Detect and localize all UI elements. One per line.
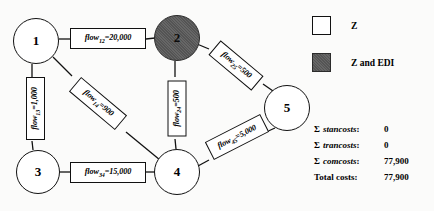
edge-line-1-4-b <box>126 132 160 160</box>
edge-label-1-3: flow13=1,000 <box>26 77 45 140</box>
edge-label-2-4-subscript: 24 <box>176 107 182 113</box>
node-1[interactable]: 1 <box>13 18 59 64</box>
legend-swatch-white <box>312 16 331 35</box>
edge-label-1-2-text: flow12=20,000 <box>85 33 132 44</box>
edge-label-1-3-subscript: 13 <box>35 110 41 116</box>
cost-value-trancosts: 0 <box>384 140 389 150</box>
edge-line-2-4-b <box>175 139 176 149</box>
cost-row-comcosts: Σcomcosts: 77,900 <box>314 156 409 172</box>
legend-label-z: Z <box>351 21 357 31</box>
legend-label-z-and-edi: Z and EDI <box>351 58 394 68</box>
cost-row-trancosts: Σtrancosts: 0 <box>314 140 409 156</box>
edge-label-1-2-value: 20,000 <box>109 33 131 42</box>
node-3[interactable]: 3 <box>16 150 60 194</box>
edge-label-1-3-value: 1,000 <box>30 87 39 105</box>
edge-label-3-4: flow34=15,000 <box>70 162 146 183</box>
sigma-icon: Σ <box>314 140 320 150</box>
edge-line-1-4 <box>53 57 72 76</box>
edge-label-2-4: flow24=500 <box>168 81 187 137</box>
cost-value-total: 77,900 <box>384 172 409 182</box>
edge-label-1-3-text: flow13=1,000 <box>30 87 41 130</box>
legend: Z Z and EDI <box>312 16 394 90</box>
node-5-label: 5 <box>284 100 291 116</box>
edge-label-4-5-value: 5,000 <box>238 123 258 139</box>
edge-label-2-4-value: 500 <box>172 90 181 102</box>
cost-term-trancosts: trancosts <box>323 140 357 150</box>
node-1-label: 1 <box>33 33 40 49</box>
edge-line-1-3-b <box>32 141 33 150</box>
cost-label-total: Total costs: <box>314 172 384 182</box>
cost-colon-trancosts: : <box>356 140 359 150</box>
sigma-icon: Σ <box>314 124 320 134</box>
cost-label-stancosts: Σstancosts: <box>314 124 384 134</box>
node-5[interactable]: 5 <box>264 85 310 131</box>
cost-value-comcosts: 77,900 <box>384 156 409 166</box>
cost-colon-stancosts: : <box>356 124 359 134</box>
sigma-icon: Σ <box>314 156 320 166</box>
cost-row-stancosts: Σstancosts: 0 <box>314 124 409 140</box>
edge-label-1-2: flow12=20,000 <box>70 28 146 49</box>
edge-label-3-4-text: flow34=15,000 <box>85 167 132 178</box>
network-diagram-canvas: 1 2 3 4 5 flow12=20,000 flow13=1,000 flo… <box>0 0 434 211</box>
edge-label-2-4-text: flow24=500 <box>172 90 183 127</box>
edge-label-1-4-value: 900 <box>100 103 115 118</box>
legend-item-z: Z <box>312 16 394 35</box>
node-2-label: 2 <box>174 30 181 46</box>
node-3-label: 3 <box>35 164 42 180</box>
node-2[interactable]: 2 <box>154 15 200 61</box>
cost-label-comcosts: Σcomcosts: <box>314 156 384 166</box>
cost-term-stancosts: stancosts <box>323 124 357 134</box>
node-4[interactable]: 4 <box>154 149 200 195</box>
node-4-label: 4 <box>174 164 181 180</box>
legend-swatch-shaded <box>312 53 331 72</box>
edge-label-2-5-value: 500 <box>238 65 253 80</box>
cost-term-comcosts: comcosts <box>323 156 357 166</box>
cost-value-stancosts: 0 <box>384 124 389 134</box>
edge-line-4-5 <box>198 160 209 166</box>
edge-label-3-4-value: 15,000 <box>109 167 131 176</box>
cost-row-total: Total costs: 77,900 <box>314 172 409 188</box>
cost-label-trancosts: Σtrancosts: <box>314 140 384 150</box>
cost-colon-comcosts: : <box>356 156 359 166</box>
legend-item-z-and-edi: Z and EDI <box>312 53 394 72</box>
cost-summary: Σstancosts: 0 Σtrancosts: 0 Σcomcosts: 7… <box>314 124 409 188</box>
